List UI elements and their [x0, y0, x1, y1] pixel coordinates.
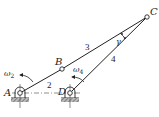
label-omega4: ω4 [73, 65, 84, 75]
joint-b [60, 67, 64, 71]
label-link-4: 4 [111, 54, 116, 64]
omega2-arrow-icon [20, 75, 33, 82]
gamma-arrow-dot-2 [124, 37, 126, 39]
label-c: C [150, 6, 158, 17]
joint-c [145, 15, 149, 19]
label-b: B [54, 56, 62, 67]
label-d: D [57, 86, 66, 97]
label-gamma: γ [116, 37, 121, 46]
gamma-arrow-dot [121, 33, 123, 35]
label-link-3: 3 [85, 42, 90, 52]
joint-d [68, 91, 73, 96]
link-3 [62, 17, 147, 69]
label-link-2: 2 [47, 80, 52, 90]
four-bar-linkage-diagram: C B A D 3 4 2 γ ω2 ω4 [0, 0, 159, 117]
link-2 [20, 69, 62, 93]
label-omega2: ω2 [4, 69, 15, 79]
ground-support-a [11, 84, 29, 108]
label-a: A [3, 87, 11, 98]
joint-a [18, 91, 23, 96]
link-4 [70, 17, 147, 93]
